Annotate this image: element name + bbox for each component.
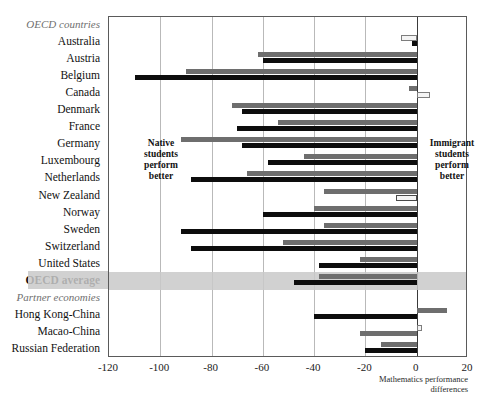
bar-immigrant-students bbox=[294, 280, 417, 285]
annotation-line: better bbox=[420, 171, 484, 182]
bar-immigrant-students bbox=[263, 58, 417, 63]
bar-immigrant-students bbox=[242, 143, 416, 148]
bar-immigrant-students bbox=[319, 263, 416, 268]
y-axis-label-switzerland: Switzerland bbox=[0, 240, 100, 253]
bar-native-students bbox=[324, 189, 416, 194]
bar-row bbox=[109, 273, 466, 290]
bar-immigrant-students bbox=[314, 314, 417, 319]
x-tick-label--60: -60 bbox=[255, 361, 270, 373]
bar-immigrant-students bbox=[135, 75, 417, 80]
native-students-annotation: Nativestudentsperformbetter bbox=[130, 138, 192, 182]
bar-immigrant-students bbox=[181, 229, 417, 234]
plot-area bbox=[108, 16, 467, 357]
bar-immigrant-students bbox=[396, 195, 417, 201]
y-axis-label-norway: Norway bbox=[0, 206, 100, 219]
oecd-average-highlight-band-gutter bbox=[28, 271, 108, 289]
bar-row bbox=[109, 324, 466, 341]
bar-row bbox=[109, 68, 466, 85]
bar-native-students bbox=[417, 308, 448, 313]
annotation-line: perform bbox=[420, 160, 484, 171]
bar-native-students bbox=[324, 223, 416, 228]
bar-immigrant-students bbox=[412, 41, 417, 46]
y-axis-label-sweden: Sweden bbox=[0, 223, 100, 236]
mathematics-performance-differences-chart: OECD countriesAustraliaAustriaBelgiumCan… bbox=[0, 0, 490, 403]
bar-row bbox=[109, 205, 466, 222]
annotation-line: perform bbox=[130, 160, 192, 171]
bar-row bbox=[109, 307, 466, 324]
bar-row bbox=[109, 341, 466, 357]
bar-row bbox=[109, 188, 466, 205]
bar-row bbox=[109, 239, 466, 256]
annotation-line: students bbox=[420, 149, 484, 160]
y-axis-label-new-zealand: New Zealand bbox=[0, 189, 100, 202]
y-axis-label-germany: Germany bbox=[0, 137, 100, 150]
bar-native-students bbox=[186, 69, 417, 74]
bar-immigrant-students bbox=[360, 331, 416, 336]
annotation-line: students bbox=[130, 149, 192, 160]
bar-native-students bbox=[319, 274, 416, 279]
bar-native-students bbox=[314, 206, 417, 211]
x-tick-label--100: -100 bbox=[149, 361, 169, 373]
bar-immigrant-students bbox=[191, 177, 417, 182]
bar-native-students bbox=[417, 325, 422, 331]
bar-immigrant-students bbox=[365, 348, 416, 353]
bar-row bbox=[109, 51, 466, 68]
group-header-partner-economies: Partner economies bbox=[0, 291, 100, 304]
bar-native-students bbox=[258, 52, 417, 57]
bar-native-students bbox=[381, 342, 417, 347]
y-axis-label-hong-kong-china: Hong Kong-China bbox=[0, 308, 100, 321]
bar-native-students bbox=[283, 240, 416, 245]
y-axis-label-macao-china: Macao-China bbox=[0, 325, 100, 338]
y-axis-label-belgium: Belgium bbox=[0, 69, 100, 82]
x-tick-label--20: -20 bbox=[357, 361, 372, 373]
bar-native-students bbox=[409, 86, 417, 91]
bar-native-students bbox=[304, 154, 417, 159]
x-tick-label-0: 0 bbox=[413, 361, 419, 373]
bar-row bbox=[109, 256, 466, 273]
y-axis-label-austria: Austria bbox=[0, 52, 100, 65]
y-axis-label-canada: Canada bbox=[0, 86, 100, 99]
y-axis-label-australia: Australia bbox=[0, 35, 100, 48]
x-tick-label--120: -120 bbox=[98, 361, 118, 373]
bar-row bbox=[109, 85, 466, 102]
immigrant-students-annotation: Immigrantstudentsperformbetter bbox=[420, 138, 484, 182]
x-axis-caption-line-2: differences bbox=[328, 384, 468, 394]
bar-native-students bbox=[360, 257, 416, 262]
bar-row bbox=[109, 34, 466, 51]
y-axis-label-russian-federation: Russian Federation bbox=[0, 342, 100, 355]
bar-native-students bbox=[232, 103, 417, 108]
annotation-line: better bbox=[130, 171, 192, 182]
bar-row bbox=[109, 102, 466, 119]
bar-immigrant-students bbox=[417, 92, 430, 98]
y-axis-label-luxembourg: Luxembourg bbox=[0, 154, 100, 167]
bar-immigrant-students bbox=[242, 109, 416, 114]
bar-native-students bbox=[247, 171, 416, 176]
bar-row bbox=[109, 119, 466, 136]
bar-immigrant-students bbox=[268, 160, 417, 165]
y-axis-label-france: France bbox=[0, 120, 100, 133]
y-axis-label-denmark: Denmark bbox=[0, 103, 100, 116]
bar-row bbox=[109, 222, 466, 239]
y-axis-label-united-states: United States bbox=[0, 257, 100, 270]
bar-immigrant-students bbox=[263, 212, 417, 217]
group-header-oecd-countries: OECD countries bbox=[0, 18, 100, 31]
x-tick-label--80: -80 bbox=[203, 361, 218, 373]
x-tick-label--40: -40 bbox=[306, 361, 321, 373]
annotation-line: Immigrant bbox=[420, 138, 484, 149]
annotation-line: Native bbox=[130, 138, 192, 149]
bar-immigrant-students bbox=[237, 126, 417, 131]
bar-immigrant-students bbox=[191, 246, 417, 251]
bar-native-students bbox=[278, 120, 416, 125]
x-tick-label-20: 20 bbox=[462, 361, 473, 373]
y-axis-label-netherlands: Netherlands bbox=[0, 171, 100, 184]
bar-native-students bbox=[181, 137, 417, 142]
x-axis-caption-line-1: Mathematics performance bbox=[328, 374, 468, 384]
x-axis-caption: Mathematics performance differences bbox=[328, 374, 468, 394]
